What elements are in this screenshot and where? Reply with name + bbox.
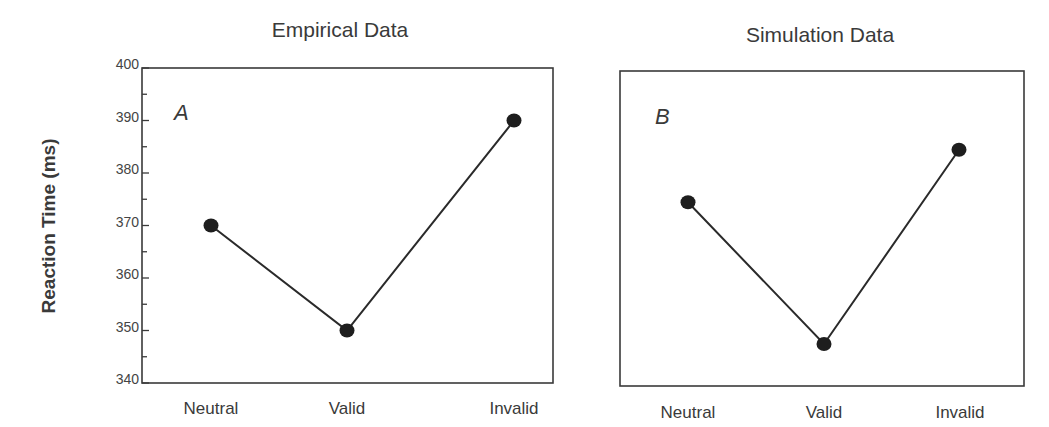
panel-a-x-categories: NeutralValidInvalid <box>184 399 539 418</box>
y-tick-label: 390 <box>116 109 140 125</box>
data-point <box>204 219 219 233</box>
x-category-label: Valid <box>806 403 843 422</box>
data-point <box>507 114 522 128</box>
panel-a-title: Empirical Data <box>272 18 409 41</box>
y-tick-label: 350 <box>116 319 140 335</box>
y-axis-label: Reaction Time (ms) <box>38 139 59 314</box>
data-point <box>952 143 967 157</box>
panel-b-label: B <box>655 104 670 129</box>
data-line <box>688 150 959 344</box>
figure: Reaction Time (ms) Empirical Data 340350… <box>0 0 1049 427</box>
x-category-label: Neutral <box>184 399 239 418</box>
y-tick-label: 360 <box>116 266 140 282</box>
y-tick-label: 340 <box>116 371 140 387</box>
panel-a-label: A <box>172 100 189 125</box>
panel-a-series <box>204 114 522 338</box>
panel-b-series <box>681 143 967 351</box>
panel-a-y-ticks: 340350360370380390400 <box>116 56 149 387</box>
x-category-label: Invalid <box>935 403 984 422</box>
panel-a: Empirical Data 340350360370380390400 A N… <box>116 18 553 418</box>
panel-b: Simulation Data B NeutralValidInvalid <box>620 23 1024 422</box>
data-line <box>211 121 514 331</box>
panel-b-title: Simulation Data <box>746 23 895 46</box>
panel-b-x-categories: NeutralValidInvalid <box>661 403 985 422</box>
data-point <box>817 337 832 351</box>
x-category-label: Valid <box>329 399 366 418</box>
data-point <box>681 195 696 209</box>
x-category-label: Invalid <box>489 399 538 418</box>
y-tick-label: 400 <box>116 56 140 72</box>
y-tick-label: 370 <box>116 214 140 230</box>
x-category-label: Neutral <box>661 403 716 422</box>
data-point <box>340 324 355 338</box>
y-tick-label: 380 <box>116 161 140 177</box>
